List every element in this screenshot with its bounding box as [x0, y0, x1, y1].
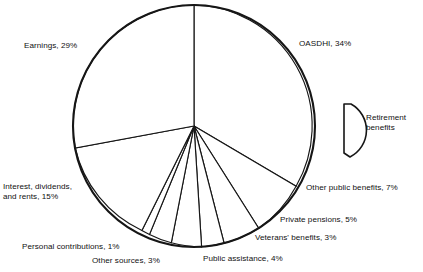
label-earnings: Earnings, 29% [24, 41, 77, 51]
pie-chart-figure: Earnings, 29% OASDHI, 34% Retirement ben… [0, 0, 423, 272]
label-interest-dividends-rents: Interest, dividends, and rents, 15% [3, 182, 72, 202]
label-retirement-benefits: Retirement benefits [366, 113, 406, 133]
label-veterans-benefits: Veterans' benefits, 3% [255, 233, 336, 243]
label-personal-contributions: Personal contributions, 1% [22, 242, 120, 252]
label-public-assistance: Public assistance, 4% [203, 254, 283, 264]
label-other-sources: Other sources, 3% [92, 256, 160, 266]
slice-earnings[interactable] [73, 5, 194, 148]
label-oasdhi: OASDHI, 34% [299, 39, 351, 49]
label-private-pensions: Private pensions, 5% [280, 215, 357, 225]
label-other-public-benefits: Other public benefits, 7% [306, 183, 398, 193]
retirement-benefits-wedge[interactable] [344, 104, 366, 157]
